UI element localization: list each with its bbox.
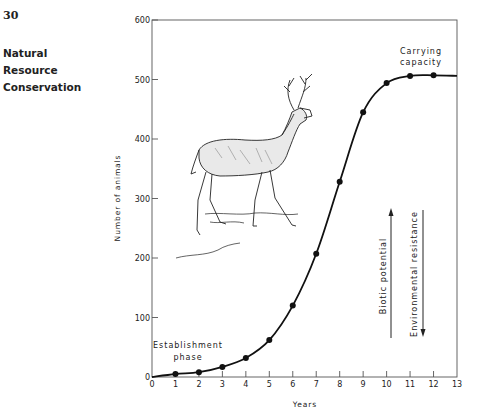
deer-illustration bbox=[176, 74, 312, 258]
deer-ground bbox=[176, 213, 298, 258]
y-tick-label: 200 bbox=[135, 254, 150, 263]
data-point bbox=[219, 364, 225, 370]
data-point bbox=[384, 80, 390, 86]
x-tick-label: 0 bbox=[149, 380, 154, 389]
y-tick-label: 600 bbox=[135, 16, 150, 25]
arrow-down-icon bbox=[421, 329, 426, 337]
x-tick-label: 1 bbox=[173, 380, 178, 389]
x-tick-label: 3 bbox=[220, 380, 225, 389]
y-axis-ticks: 0100200300400500600 bbox=[135, 16, 158, 382]
x-tick-label: 4 bbox=[243, 380, 248, 389]
y-tick-label: 300 bbox=[135, 195, 150, 204]
environmental-resistance-label: Environmental resistance bbox=[410, 211, 419, 337]
data-point bbox=[407, 73, 413, 79]
data-point bbox=[243, 355, 249, 361]
arrow-up-icon bbox=[389, 208, 394, 216]
biotic-potential-arrow bbox=[389, 208, 394, 338]
y-tick-label: 400 bbox=[135, 135, 150, 144]
x-tick-label: 12 bbox=[428, 380, 438, 389]
y-tick-label: 500 bbox=[135, 76, 150, 85]
deer-antlers bbox=[284, 74, 312, 110]
x-tick-label: 5 bbox=[267, 380, 272, 389]
data-point bbox=[431, 72, 437, 78]
x-tick-label: 2 bbox=[196, 380, 201, 389]
carrying-capacity-label-2: capacity bbox=[400, 58, 442, 67]
data-point bbox=[337, 179, 343, 185]
population-growth-chart: 0100200300400500600 012345678910111213 N… bbox=[0, 0, 480, 414]
biotic-potential-label: Biotic potential bbox=[379, 238, 388, 315]
data-point bbox=[196, 369, 202, 375]
establishment-phase-label-2: phase bbox=[173, 353, 202, 362]
x-axis-label: Years bbox=[292, 400, 317, 409]
data-point bbox=[266, 337, 272, 343]
x-tick-label: 6 bbox=[290, 380, 295, 389]
deer-legs bbox=[197, 170, 296, 235]
data-point bbox=[290, 303, 296, 309]
data-point bbox=[360, 109, 366, 115]
y-axis-label: Number of animals bbox=[113, 155, 122, 242]
deer-body bbox=[199, 108, 307, 176]
x-tick-label: 9 bbox=[361, 380, 366, 389]
x-tick-label: 13 bbox=[452, 380, 462, 389]
x-tick-label: 10 bbox=[382, 380, 392, 389]
environmental-resistance-arrow bbox=[421, 210, 426, 337]
carrying-capacity-label-1: Carrying bbox=[400, 47, 442, 56]
x-tick-label: 11 bbox=[405, 380, 415, 389]
data-point bbox=[172, 371, 178, 377]
x-tick-label: 7 bbox=[314, 380, 319, 389]
x-tick-label: 8 bbox=[337, 380, 342, 389]
y-tick-label: 100 bbox=[135, 314, 150, 323]
establishment-phase-label-1: Establishment bbox=[153, 341, 223, 350]
data-point bbox=[313, 251, 319, 257]
